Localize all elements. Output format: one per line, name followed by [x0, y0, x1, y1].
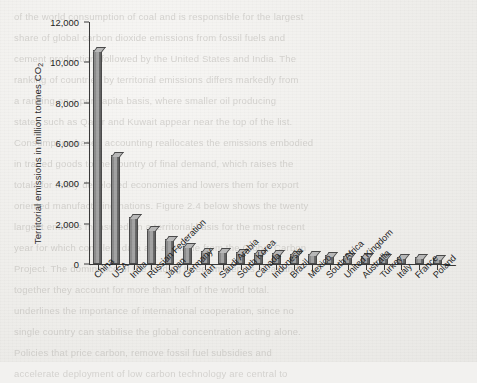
- bar-top-face: [147, 226, 160, 231]
- y-axis-line: [89, 22, 90, 265]
- y-axis-tick-label: 2,000: [33, 218, 79, 229]
- bar: [147, 229, 156, 264]
- bar-top-face: [308, 251, 321, 256]
- bar-top-face: [218, 248, 231, 253]
- bar-top-face: [165, 236, 178, 241]
- bar-top-face: [129, 214, 142, 219]
- bar: [129, 217, 138, 264]
- y-axis-tick-label: 8,000: [33, 97, 79, 108]
- y-axis-tick-label: 4,000: [33, 178, 79, 189]
- bar-top-face: [111, 152, 124, 157]
- bar: [111, 155, 120, 264]
- y-axis-tick-label: 0: [33, 259, 79, 270]
- y-axis-tick-label: 6,000: [33, 138, 79, 149]
- bar: [93, 50, 102, 264]
- y-axis-tick-label: 12,000: [33, 17, 79, 28]
- bar-top-face: [93, 47, 106, 52]
- y-axis-tick-label: 10,000: [33, 57, 79, 68]
- background-text-line: accelerate deployment of low carbon tech…: [14, 363, 467, 383]
